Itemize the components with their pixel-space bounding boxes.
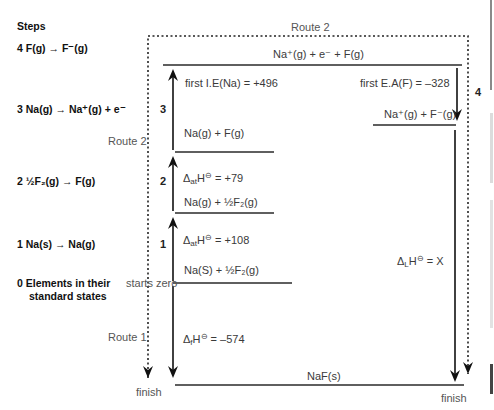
route2-left-label: Route 2: [108, 135, 147, 148]
ie-label: first I.E(Na) = +496: [185, 77, 278, 90]
value: = X: [424, 255, 444, 267]
step-marker-4: 4: [475, 86, 481, 99]
step-1-text: Na(s) → Na(g): [26, 238, 95, 250]
step-0-text: Elements in their: [26, 277, 111, 289]
enthalpy-symbol: H: [197, 172, 205, 184]
level-ions-label: Na⁺(g) + F⁻(g): [384, 108, 456, 121]
level-product-label: NaF(s): [307, 370, 341, 383]
level-na-g-f-g-label: Na(g) + F(g): [184, 127, 244, 140]
step-2-label: 2 ½F₂(g) → F(g): [17, 175, 95, 188]
finish-right-label: finish: [441, 392, 467, 405]
step-marker-3: 3: [160, 103, 166, 116]
born-haber-cycle-diagram: Steps 4 F(g) → F⁻(g) 3 Na(g) → Na⁺(g) + …: [0, 0, 494, 410]
enthalpy-symbol: H: [197, 234, 205, 246]
step-4-label: 4 F(g) → F⁻(g): [17, 42, 88, 55]
standard-state-icon: ⊖: [201, 332, 208, 341]
enthalpy-symbol: H: [193, 333, 201, 345]
standard-state-icon: ⊖: [205, 233, 212, 242]
edge-bar-2: [490, 113, 493, 183]
step-4-num: 4: [17, 42, 23, 54]
step-marker-1: 1: [160, 238, 166, 251]
step-3-label: 3 Na(g) → Na⁺(g) + e⁻: [17, 103, 126, 116]
route1-label: Route 1: [108, 331, 147, 344]
step-4-text: F(g) → F⁻(g): [26, 42, 88, 54]
edge-bar-3: [490, 200, 493, 328]
route2-top-label: Route 2: [291, 21, 330, 34]
step-marker-2: 2: [160, 175, 166, 188]
value: = –574: [208, 333, 245, 345]
enthalpy-symbol: H: [409, 255, 417, 267]
step-2-text: ½F₂(g) → F(g): [26, 175, 95, 187]
value: = +79: [212, 172, 243, 184]
atomisation-na-label: ΔatH⊖ = +108: [183, 231, 249, 250]
standard-state-icon: ⊖: [205, 171, 212, 180]
step-2-num: 2: [17, 175, 23, 187]
formation-label: ΔfH⊖ = –574: [183, 330, 245, 349]
ea-label: first E.A(F) = –328: [360, 77, 450, 90]
level-elements-label: Na(S) + ½F₂(g): [184, 264, 259, 277]
level-top-label: Na⁺(g) + e⁻ + F(g): [273, 48, 364, 61]
level-na-g-half-f2-label: Na(g) + ½F₂(g): [184, 196, 258, 209]
edge-bar-4: [490, 364, 493, 394]
value: = +108: [212, 234, 249, 246]
lattice-label: ΔLH⊖ = X: [397, 252, 444, 271]
step-0-num: 0: [17, 277, 23, 289]
step-1-num: 1: [17, 238, 23, 250]
steps-header: Steps: [17, 20, 46, 33]
step-1-label: 1 Na(s) → Na(g): [17, 238, 95, 251]
step-3-num: 3: [17, 103, 23, 115]
edge-bar-1: [490, 0, 492, 90]
starts-zero-label: starts zero: [126, 277, 177, 290]
step-0-label-line2: standard states: [29, 290, 107, 303]
route2-arrowhead: [463, 362, 473, 374]
finish-left-label: finish: [136, 386, 162, 399]
atomisation-f-label: ΔatH⊖ = +79: [183, 169, 243, 188]
step-0-label: 0 Elements in their: [17, 277, 110, 290]
standard-state-icon: ⊖: [417, 254, 424, 263]
step-3-text: Na(g) → Na⁺(g) + e⁻: [26, 103, 126, 115]
